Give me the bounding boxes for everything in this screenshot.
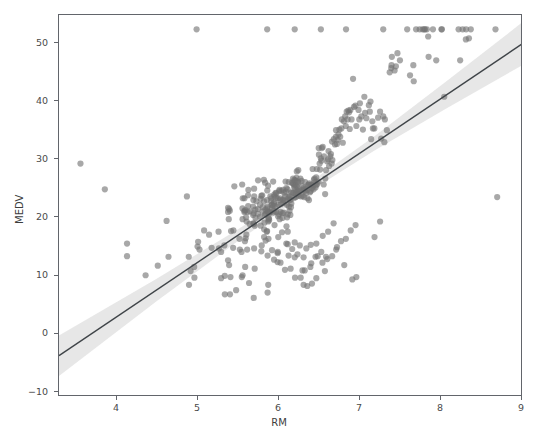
data-point <box>239 272 245 278</box>
data-point <box>242 264 248 270</box>
data-point <box>222 291 228 297</box>
data-point <box>282 267 288 273</box>
data-point <box>430 26 436 32</box>
data-point <box>165 254 171 260</box>
y-tick-label-20: 20 <box>16 211 48 222</box>
data-point <box>230 245 236 251</box>
data-point <box>142 272 148 278</box>
data-point <box>245 187 251 193</box>
data-point <box>494 194 500 200</box>
data-point <box>333 246 339 252</box>
data-point <box>347 126 353 132</box>
scatter-canvas <box>59 15 522 396</box>
x-tick-label-9: 9 <box>511 402 531 413</box>
data-point <box>275 250 281 256</box>
data-point <box>195 239 201 245</box>
data-point <box>124 241 130 247</box>
data-point <box>393 63 399 69</box>
data-point <box>381 139 387 145</box>
y-tick-label-40: 40 <box>16 95 48 106</box>
x-tick-label-5: 5 <box>187 402 207 413</box>
data-point <box>322 191 328 197</box>
y-tick-label-30: 30 <box>16 153 48 164</box>
data-point <box>302 267 308 273</box>
data-point <box>244 246 250 252</box>
x-tickmark-8 <box>440 396 441 400</box>
data-point <box>343 26 349 32</box>
data-point <box>317 166 323 172</box>
data-point <box>411 78 417 84</box>
x-tickmark-6 <box>278 396 279 400</box>
data-point <box>382 116 388 122</box>
data-point <box>331 220 337 226</box>
data-point <box>329 253 335 259</box>
data-point <box>292 275 298 281</box>
data-point <box>320 144 326 150</box>
data-point <box>186 282 192 288</box>
data-point <box>315 253 321 259</box>
data-point <box>271 222 277 228</box>
data-point <box>77 161 83 167</box>
data-point <box>226 262 232 268</box>
data-point <box>163 218 169 224</box>
data-point <box>243 232 249 238</box>
data-point <box>193 26 199 32</box>
x-tickmark-7 <box>359 396 360 400</box>
data-point <box>404 26 410 32</box>
data-point <box>371 125 377 131</box>
data-point <box>424 26 430 32</box>
data-point <box>318 26 324 32</box>
data-point <box>397 57 403 63</box>
data-point <box>439 26 445 32</box>
data-point <box>264 228 270 234</box>
data-point <box>341 262 347 268</box>
data-point <box>186 254 192 260</box>
data-point <box>239 181 245 187</box>
data-point <box>265 183 271 189</box>
x-tick-label-4: 4 <box>106 402 126 413</box>
y-tick-label-minus10: −10 <box>16 386 48 397</box>
data-point <box>191 275 197 281</box>
data-point <box>407 72 413 78</box>
data-point <box>307 264 313 270</box>
data-point <box>196 246 202 252</box>
data-point <box>348 116 354 122</box>
data-point <box>279 229 285 235</box>
data-point <box>325 229 331 235</box>
data-point <box>289 246 295 252</box>
data-point <box>226 216 232 222</box>
data-point <box>206 232 212 238</box>
data-point <box>264 26 270 32</box>
data-point <box>353 123 359 129</box>
data-point <box>308 242 314 248</box>
data-point <box>259 192 265 198</box>
data-point <box>233 287 239 293</box>
data-point <box>231 183 237 189</box>
data-point <box>288 266 294 272</box>
data-point <box>215 229 221 235</box>
data-point <box>410 62 416 68</box>
data-point <box>380 26 386 32</box>
data-point <box>313 275 319 281</box>
x-axis-label: RM <box>271 417 287 428</box>
data-point <box>252 266 258 272</box>
data-point <box>369 118 375 124</box>
data-point <box>265 252 271 258</box>
data-point <box>384 127 390 133</box>
data-point <box>328 151 334 157</box>
data-point <box>283 223 289 229</box>
data-point <box>357 100 363 106</box>
data-point <box>295 167 301 173</box>
data-point <box>297 242 303 248</box>
data-point <box>287 212 293 218</box>
y-tick-label-10: 10 <box>16 269 48 280</box>
data-point <box>348 227 354 233</box>
data-point <box>184 193 190 199</box>
data-point <box>285 229 291 235</box>
data-point <box>209 245 215 251</box>
data-point <box>361 94 367 100</box>
data-point <box>285 252 291 258</box>
data-point <box>309 280 315 286</box>
data-point <box>259 242 265 248</box>
data-point <box>227 208 233 214</box>
